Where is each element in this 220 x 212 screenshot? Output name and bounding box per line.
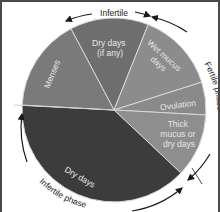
- fertile-boundary-tick: [192, 168, 202, 184]
- infertile-arrow-left: [66, 14, 92, 21]
- diagram-frame: Dry days (if any) Wet mucus days Ovulati…: [0, 0, 220, 212]
- infertile-arrow-right: [135, 12, 150, 16]
- label-infertile-top: Infertile: [100, 8, 128, 18]
- label-dry-if-any: Dry days (if any): [92, 38, 128, 58]
- fertility-cycle-pie: Dry days (if any) Wet mucus days Ovulati…: [0, 0, 220, 212]
